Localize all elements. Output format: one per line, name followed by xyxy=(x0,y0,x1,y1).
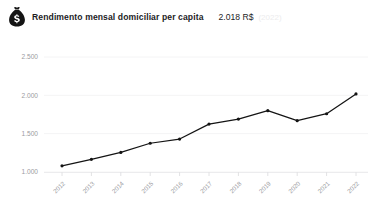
money-bag-icon xyxy=(0,0,34,34)
data-point xyxy=(266,109,269,112)
data-point xyxy=(60,164,63,167)
data-point xyxy=(237,118,240,121)
page-title: Rendimento mensal domiciliar per capita xyxy=(32,12,204,22)
x-axis-label: 2018 xyxy=(228,179,243,194)
period-badge: (2022) xyxy=(258,13,281,22)
x-axis-label: 2020 xyxy=(287,179,302,194)
data-point xyxy=(296,119,299,122)
data-point xyxy=(178,137,181,140)
chart-canvas: 1.0001.5002.0002.50020122013201420152016… xyxy=(0,34,373,215)
data-point xyxy=(354,92,357,95)
x-axis-label: 2015 xyxy=(140,179,155,194)
data-point xyxy=(119,151,122,154)
x-axis-label: 2013 xyxy=(81,179,96,194)
data-point xyxy=(90,158,93,161)
chart-card: Rendimento mensal domiciliar per capita … xyxy=(0,0,373,215)
data-point xyxy=(149,142,152,145)
x-axis-label: 2021 xyxy=(316,179,331,194)
x-axis-label: 2016 xyxy=(169,179,184,194)
x-axis-label: 2017 xyxy=(199,179,214,194)
y-axis-label: 1.000 xyxy=(21,168,38,175)
data-point xyxy=(207,122,210,125)
x-axis-label: 2014 xyxy=(110,179,125,194)
x-axis-label: 2022 xyxy=(346,179,361,194)
y-axis-label: 2.000 xyxy=(21,92,38,99)
y-axis-label: 1.500 xyxy=(21,130,38,137)
x-axis-label: 2012 xyxy=(52,179,67,194)
headline-value: 2.018 R$ xyxy=(219,12,254,22)
y-axis-label: 2.500 xyxy=(21,53,38,60)
line-chart: 1.0001.5002.0002.50020122013201420152016… xyxy=(0,34,373,215)
card-header: Rendimento mensal domiciliar per capita … xyxy=(0,0,373,34)
series-line xyxy=(62,94,356,166)
data-point xyxy=(325,112,328,115)
x-axis-label: 2019 xyxy=(257,179,272,194)
